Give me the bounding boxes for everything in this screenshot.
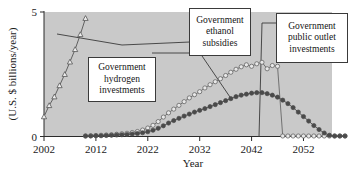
data-point-marker: [89, 134, 93, 138]
data-point-marker: [172, 118, 176, 122]
x-tick-label: 2052: [292, 143, 314, 155]
data-point-marker: [281, 98, 285, 102]
annotation-line: ethanol: [206, 26, 234, 38]
data-point-marker: [244, 92, 248, 96]
data-point-marker: [291, 106, 295, 110]
data-point-marker: [270, 93, 274, 97]
data-point-marker: [218, 77, 222, 81]
data-point-marker: [301, 114, 305, 118]
x-tick-label: 2022: [137, 143, 159, 155]
data-point-marker: [115, 133, 119, 137]
data-point-marker: [338, 134, 342, 138]
x-axis-ticks: 200220122022203220422052: [33, 137, 314, 156]
x-axis-title: Year: [183, 157, 204, 169]
y-tick-label: 0: [32, 131, 38, 143]
data-point-marker: [260, 60, 264, 64]
data-point-marker: [270, 63, 274, 67]
annotation-public-outlet-investments: Government public outlet investments: [276, 13, 348, 63]
data-point-marker: [203, 107, 207, 111]
data-point-marker: [130, 132, 134, 136]
y-axis-title: (U.S. $ billions/year): [6, 27, 19, 120]
data-point-marker: [192, 110, 196, 114]
data-point-marker: [322, 131, 326, 135]
data-point-marker: [94, 134, 98, 138]
data-point-marker: [141, 131, 145, 135]
data-point-marker: [156, 119, 160, 123]
data-point-marker: [224, 99, 228, 103]
annotation-line: Government: [288, 21, 336, 33]
data-point-marker: [177, 103, 181, 107]
data-point-marker: [229, 97, 233, 101]
data-point-marker: [177, 116, 181, 120]
annotation-line: public outlet: [288, 32, 336, 44]
data-point-marker: [198, 90, 202, 94]
data-point-marker: [255, 62, 259, 66]
annotation-line: investments: [99, 85, 144, 97]
data-point-marker: [151, 123, 155, 127]
data-point-marker: [213, 103, 217, 107]
data-point-marker: [135, 131, 139, 135]
data-point-marker: [218, 101, 222, 105]
data-point-marker: [281, 134, 285, 138]
annotation-ethanol-subsidies: Government ethanol subsidies: [189, 8, 251, 56]
data-point-marker: [307, 134, 311, 138]
data-point-marker: [229, 70, 233, 74]
data-point-marker: [224, 73, 228, 77]
data-point-marker: [286, 102, 290, 106]
data-point-marker: [166, 121, 170, 125]
data-point-marker: [275, 95, 279, 99]
data-point-marker: [192, 93, 196, 97]
data-point-marker: [187, 112, 191, 116]
data-point-marker: [239, 65, 243, 69]
data-point-marker: [182, 114, 186, 118]
annotation-line: hydrogen: [104, 74, 140, 86]
data-point-marker: [239, 93, 243, 97]
data-point-marker: [249, 64, 253, 68]
data-point-marker: [198, 108, 202, 112]
data-point-marker: [301, 134, 305, 138]
data-point-marker: [104, 133, 108, 137]
data-point-marker: [249, 91, 253, 95]
data-point-marker: [275, 64, 279, 68]
x-tick-label: 2002: [33, 143, 55, 155]
x-tick-label: 2042: [241, 143, 263, 155]
annotation-hydrogen-investments: Government hydrogen investments: [88, 57, 156, 102]
annotation-line: Government: [196, 15, 244, 27]
data-point-marker: [156, 126, 160, 130]
data-point-marker: [172, 107, 176, 111]
data-point-marker: [260, 91, 264, 95]
annotation-line: Government: [98, 62, 146, 74]
data-point-marker: [109, 133, 113, 137]
data-point-marker: [327, 133, 331, 137]
data-point-marker: [317, 127, 321, 131]
data-point-marker: [244, 63, 248, 67]
data-point-marker: [161, 115, 165, 119]
chart-figure: 05 200220122022203220422052 Year (U.S. $…: [0, 0, 354, 181]
data-point-marker: [286, 134, 290, 138]
data-point-marker: [120, 133, 124, 137]
data-point-marker: [312, 123, 316, 127]
data-point-marker: [317, 134, 321, 138]
data-point-marker: [83, 134, 87, 138]
data-point-marker: [307, 119, 311, 123]
annotation-line: subsidies: [203, 38, 238, 50]
data-point-marker: [312, 134, 316, 138]
data-point-marker: [125, 132, 129, 136]
data-point-marker: [255, 91, 259, 95]
data-point-marker: [291, 134, 295, 138]
data-point-marker: [234, 67, 238, 71]
data-point-marker: [203, 86, 207, 90]
data-point-marker: [182, 100, 186, 104]
data-point-marker: [146, 130, 150, 134]
data-point-marker: [208, 105, 212, 109]
data-point-marker: [151, 128, 155, 132]
data-point-marker: [161, 124, 165, 128]
data-point-marker: [99, 134, 103, 138]
data-point-marker: [213, 80, 217, 84]
data-point-marker: [187, 96, 191, 100]
annotation-line: investments: [289, 44, 334, 56]
data-point-marker: [166, 111, 170, 115]
data-point-marker: [296, 110, 300, 114]
data-point-marker: [234, 95, 238, 99]
data-point-marker: [265, 92, 269, 96]
